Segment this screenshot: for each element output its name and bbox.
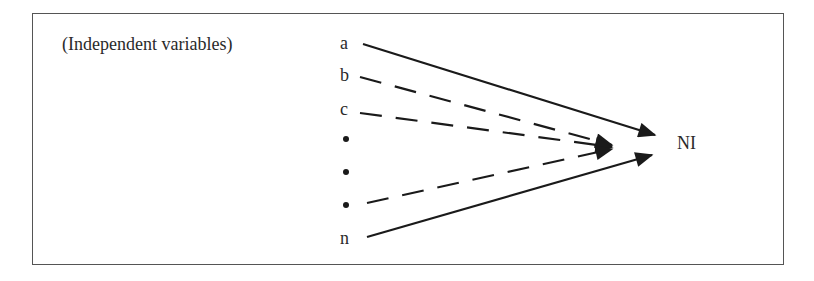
arrow-c-to-ni bbox=[360, 113, 612, 147]
arrow-connectors bbox=[0, 0, 814, 281]
arrow-n-to-ni bbox=[367, 155, 652, 237]
arrow-b-to-ni bbox=[360, 77, 612, 145]
